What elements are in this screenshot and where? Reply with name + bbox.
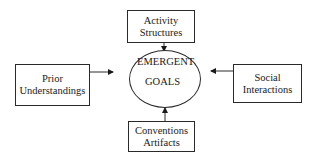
node-conventions-artifacts: Conventions Artifacts	[128, 121, 195, 152]
node-label-line1: Conventions	[135, 125, 188, 137]
node-label-line2: Artifacts	[143, 137, 180, 149]
node-label-line2: Structures	[140, 27, 183, 39]
node-label-line2: Interactions	[243, 84, 293, 96]
center-label-line1: EMERGENT	[137, 56, 194, 68]
node-activity-structures: Activity Structures	[127, 10, 195, 43]
node-social-interactions: Social Interactions	[233, 64, 302, 103]
node-prior-understandings: Prior Understandings	[15, 64, 90, 106]
node-label-line1: Social	[254, 72, 280, 84]
node-label-line1: Activity	[144, 15, 178, 27]
node-label-line2: Understandings	[20, 85, 86, 97]
center-label-line2: GOALS	[145, 76, 180, 88]
node-label-line1: Prior	[42, 73, 63, 85]
